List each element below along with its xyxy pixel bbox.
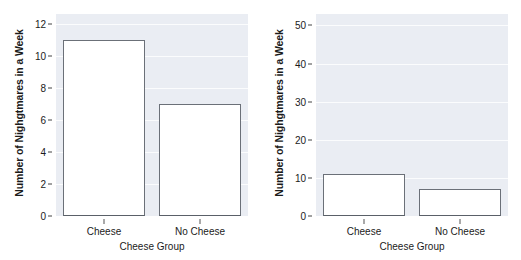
y-axis-tick-label: 40: [295, 58, 306, 69]
bar: [419, 189, 502, 216]
y-axis-tick-label: 20: [295, 134, 306, 145]
gridline: [316, 25, 508, 26]
y-axis-tick-label: 6: [40, 114, 46, 125]
y-axis-tick-label: 4: [40, 146, 46, 157]
y-axis-tick-label: 12: [35, 18, 46, 29]
x-axis-tick-mark: [460, 219, 461, 224]
x-axis-tick-label: Cheese: [87, 226, 121, 237]
y-axis-tick-mark: [308, 139, 312, 140]
bar: [159, 104, 242, 216]
bar: [63, 40, 146, 216]
x-axis-tick-mark: [104, 219, 105, 224]
y-axis-tick-label: 10: [35, 50, 46, 61]
y-axis-tick-mark: [48, 119, 52, 120]
y-axis-tick-label: 30: [295, 96, 306, 107]
y-axis-tick-mark: [48, 55, 52, 56]
y-axis-tick-mark: [48, 23, 52, 24]
two-panel-bar-chart-figure: Number of Nighgtmares in a Week 02468101…: [0, 0, 521, 260]
gridline: [316, 140, 508, 141]
gridline: [316, 64, 508, 65]
y-axis-tick-mark: [48, 183, 52, 184]
y-axis-tick-label: 10: [295, 172, 306, 183]
gridline: [56, 24, 248, 25]
y-axis-tick-mark: [308, 63, 312, 64]
y-axis-tick-labels: 01020304050: [286, 14, 312, 216]
x-axis-tick-mark: [364, 219, 365, 224]
x-axis-tick-mark: [200, 219, 201, 224]
x-axis-title: Cheese Group: [56, 241, 248, 252]
gridline: [316, 102, 508, 103]
x-axis-tick-label: Cheese: [347, 226, 381, 237]
y-axis-tick-label: 8: [40, 82, 46, 93]
y-axis-tick-mark: [308, 25, 312, 26]
chart-panel-right: Number of Nighgtmares in a Week 01020304…: [260, 0, 520, 260]
x-axis-tick-label: No Cheese: [175, 226, 225, 237]
y-axis-tick-label: 0: [300, 211, 306, 222]
y-axis-tick-mark: [48, 151, 52, 152]
y-axis-tick-label: 0: [40, 211, 46, 222]
y-axis-tick-mark: [308, 101, 312, 102]
y-axis-tick-label: 50: [295, 20, 306, 31]
x-axis-title: Cheese Group: [316, 241, 508, 252]
y-axis-tick-mark: [308, 216, 312, 217]
y-axis-tick-label: 2: [40, 178, 46, 189]
bar: [323, 174, 406, 216]
y-axis-tick-mark: [48, 216, 52, 217]
chart-panel-left: Number of Nighgtmares in a Week 02468101…: [0, 0, 260, 260]
plot-area: [316, 14, 508, 216]
plot-area: [56, 14, 248, 216]
x-axis-tick-label: No Cheese: [435, 226, 485, 237]
y-axis-tick-mark: [308, 177, 312, 178]
y-axis-tick-mark: [48, 87, 52, 88]
y-axis-tick-labels: 024681012: [26, 14, 52, 216]
